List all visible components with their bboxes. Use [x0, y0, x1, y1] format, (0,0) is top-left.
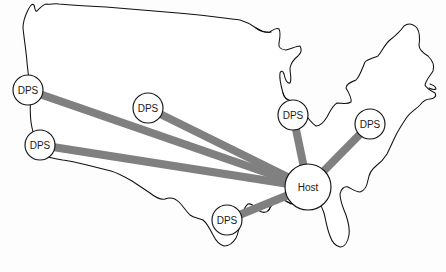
dps-south-circle[interactable]: [212, 205, 242, 235]
node-dps-northwest[interactable]: DPS: [13, 75, 43, 105]
dps-southwest-circle[interactable]: [25, 130, 55, 160]
node-dps-central[interactable]: DPS: [133, 93, 163, 123]
dps-central-circle[interactable]: [133, 93, 163, 123]
node-dps-northeast[interactable]: DPS: [355, 109, 385, 139]
node-dps-greatlakes[interactable]: DPS: [278, 100, 308, 130]
map-canvas: DPS DPS DPS DPS DPS DPS: [0, 0, 446, 272]
network-map-figure: DPS DPS DPS DPS DPS DPS: [0, 0, 446, 272]
node-host[interactable]: Host: [285, 164, 331, 210]
cape-cod-detail: [429, 84, 436, 89]
dps-northeast-circle[interactable]: [355, 109, 385, 139]
dps-northwest-circle[interactable]: [13, 75, 43, 105]
node-dps-south[interactable]: DPS: [212, 205, 242, 235]
node-dps-southwest[interactable]: DPS: [25, 130, 55, 160]
dps-greatlakes-circle[interactable]: [278, 100, 308, 130]
host-circle[interactable]: [285, 164, 331, 210]
